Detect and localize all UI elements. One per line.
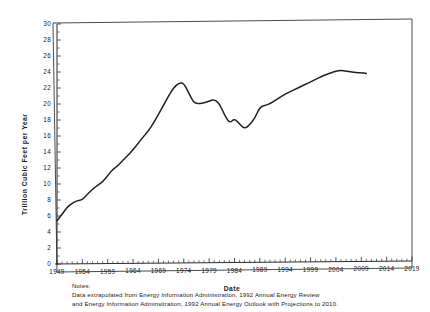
notes-block: Notes: Data extrapolated from Energy Inf… [72, 282, 338, 307]
x-tick-label: 1979 [201, 267, 217, 274]
natural-gas-consumption-line-chart: 024681012141618202224262830 194919541959… [0, 0, 430, 312]
x-tick-label: 1954 [75, 268, 91, 275]
data-line-natural-gas [57, 71, 366, 221]
x-tick-label: 1969 [151, 267, 167, 274]
y-tick-label: 6 [47, 212, 51, 219]
x-tick-label: 1959 [100, 268, 116, 275]
x-tick-label: 2004 [328, 266, 344, 273]
y-tick-label: 22 [43, 84, 51, 91]
x-tick-label: 2009 [354, 265, 370, 272]
x-tick-label: 1999 [303, 266, 319, 273]
y-axis-title: Trillion Cubic Feet per Year [21, 113, 29, 215]
notes-line-1: Data extrapolated from Energy Informatio… [72, 291, 320, 298]
y-tick-label: 2 [47, 244, 51, 251]
y-tick-label: 20 [43, 100, 51, 107]
x-tick-label: 1994 [278, 266, 294, 273]
y-tick-label: 18 [43, 116, 51, 123]
y-tick-label: 4 [47, 228, 51, 235]
y-tick-label: 14 [43, 148, 51, 155]
y-tick-label: 10 [43, 180, 51, 187]
plot-frame [53, 19, 412, 272]
x-tick-label: 1949 [49, 268, 65, 275]
x-tick-label: 1989 [252, 266, 268, 273]
x-axis: 1949195419591964196919741979198419891994… [49, 257, 420, 276]
y-tick-label: 26 [43, 52, 51, 59]
y-tick-label: 8 [47, 196, 51, 203]
y-axis-title-text: Trillion Cubic Feet per Year [21, 113, 29, 215]
notes-label: Notes: [72, 282, 91, 289]
x-tick-label: 1984 [227, 267, 243, 274]
x-tick-label: 2019 [404, 265, 420, 272]
notes-line-2: and Energy Information Adminsitration, 1… [72, 300, 338, 307]
x-tick-label: 1964 [125, 267, 141, 274]
data-series-group [57, 71, 366, 221]
y-tick-label: 0 [47, 260, 51, 267]
y-tick-label: 16 [43, 132, 51, 139]
chart-figure: 024681012141618202224262830 194919541959… [0, 0, 430, 312]
x-tick-label: 1974 [176, 267, 192, 274]
y-tick-label: 28 [43, 36, 51, 43]
axes [55, 24, 412, 265]
y-axis: 024681012141618202224262830 [43, 20, 61, 267]
y-tick-label: 24 [43, 68, 51, 75]
y-tick-label: 30 [43, 20, 51, 27]
y-tick-label: 12 [43, 164, 51, 171]
x-tick-label: 2014 [379, 265, 395, 272]
